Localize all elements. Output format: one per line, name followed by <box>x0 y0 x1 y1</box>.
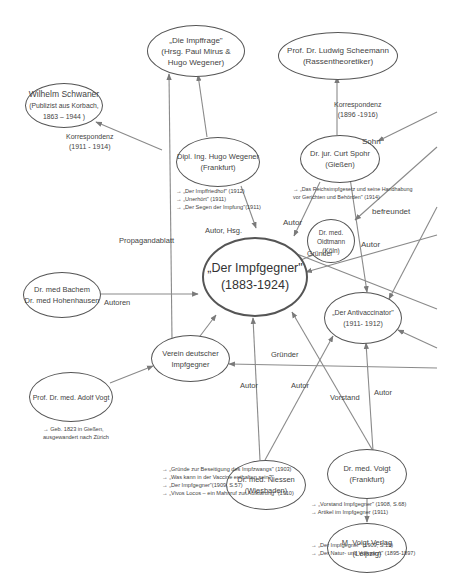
reference-item: → „Der Impfgegner"(1909, S.57) <box>162 481 294 489</box>
node-line: Dr. med Hohenhausen <box>24 295 99 306</box>
node-schwaner[interactable]: Wilhelm Schwaner (Publizist aus Korbach,… <box>25 83 103 128</box>
reference-item: vor Gerichten und Behörden" (1914) <box>293 193 413 201</box>
node-verein-deutscher-impfgegner[interactable]: Verein deutscher Impfgegner <box>151 335 230 382</box>
node-line: Verein deutscher <box>162 348 218 359</box>
edge-label-autoren: Autoren <box>104 298 130 307</box>
reference-item: → „Der Impffriedhof" (1912) <box>176 187 261 195</box>
references-voigt: → „Vorstand Impfgegner" (1908, S.68) → A… <box>311 500 406 516</box>
edge-label-spohr-autor: Autor <box>283 218 302 227</box>
node-line: (Frankfurt) <box>349 474 384 485</box>
edge-label-gruender-oidtmann: Gründer <box>307 250 333 257</box>
node-line: Dr. med. Voigt <box>343 463 390 474</box>
node-line: Dipl. Ing. Hugo Wegener <box>177 151 259 162</box>
reference-item: → „Der Impfgegner" (1909, S.19) <box>311 541 415 549</box>
edge-label-vorstand: Vorstand <box>330 393 360 402</box>
node-scheemann[interactable]: Prof. Dr. Ludwig Scheemann (Rassentheore… <box>278 32 398 80</box>
node-line: „Der Impfgegner" <box>207 260 302 277</box>
node-line: (1911- 1912) <box>343 318 383 329</box>
edge-label-gruender-verein: Gründer <box>271 350 299 359</box>
node-line: Oidtmann <box>317 237 345 246</box>
references-niessen: → „Gründe zur Beseitigung des Impfzwangs… <box>162 465 294 497</box>
node-line: Prof. Dr. med. Adolf Vogt <box>33 392 110 403</box>
reference-item: → Geb. 1823 in Gießen, <box>43 425 109 433</box>
edge-label-oidtmann-autor: Autor <box>361 240 380 249</box>
edge-label-sohn: Sohn <box>362 137 381 146</box>
reference-item: → „Unerhört" (1911) <box>176 195 261 203</box>
label-line: Korrespondenz <box>334 100 381 110</box>
node-line: (Publizist aus Korbach, <box>29 100 99 111</box>
node-die-impffrage[interactable]: „Die Impffrage" (Hrsg. Paul Mirus & Hugo… <box>147 25 245 77</box>
reference-item: → „Gründe zur Beseitigung des Impfzwangs… <box>162 465 294 473</box>
reference-item: → „Vorstand Impfgegner" (1908, S.68) <box>311 500 406 508</box>
reference-item: → „Das Reichsimpfgesetz und seine Handha… <box>293 185 413 193</box>
node-line: Dr. jur. Curt Spohr <box>310 148 370 159</box>
reference-item: ausgewandert nach Zürich <box>43 433 109 441</box>
node-line: Dr. med. <box>319 228 344 237</box>
node-der-antivaccinator[interactable]: „Der Antivaccinator" (1911- 1912) <box>324 292 402 344</box>
reference-item: → Artikel im Impfgegner (1911) <box>311 508 406 516</box>
label-line: (1896 -1916) <box>334 110 381 120</box>
node-bachem[interactable]: Dr. med Bachem Dr. med Hohenhausen <box>23 272 101 318</box>
edge-label-befreundet: befreundet <box>372 207 410 216</box>
references-vogt: → Geb. 1823 in Gießen, ausgewandert nach… <box>43 425 109 441</box>
edge-label-niessen-autor-2: Autor <box>291 381 309 390</box>
edge-label-niessen-autor-1: Autor <box>240 381 258 390</box>
node-line: (Gießen) <box>325 159 355 170</box>
node-wegener[interactable]: Dipl. Ing. Hugo Wegener (Frankfurt) <box>176 137 260 187</box>
edge-label-voigt-autor: Autor <box>374 388 392 397</box>
node-voigt[interactable]: Dr. med. Voigt (Frankfurt) <box>327 449 407 499</box>
edge-label-propagandablatt: Propagandablatt <box>119 236 174 245</box>
reference-item: → „Was kann in der Vaccine enthalten sei… <box>162 473 294 481</box>
node-line: Wilhelm Schwaner <box>29 89 99 100</box>
node-line: 1863 – 1944 ) <box>43 111 85 122</box>
node-line: (Frankfurt) <box>200 162 235 173</box>
reference-item: → „Der Natur- und Volksarzt" (1895-1897) <box>311 549 415 557</box>
reference-item: → „Vivos Locos – ein Mahnruf zur Aufklär… <box>162 489 294 497</box>
label-line: (1911 - 1914) <box>66 142 113 152</box>
node-line: „Der Antivaccinator" <box>332 307 394 318</box>
node-line: Prof. Dr. Ludwig Scheemann <box>287 45 389 56</box>
node-adolf-vogt[interactable]: Prof. Dr. med. Adolf Vogt <box>29 372 113 422</box>
references-wegener: → „Der Impffriedhof" (1912) → „Unerhört"… <box>176 187 261 211</box>
node-der-impfgegner[interactable]: „Der Impfgegner" (1883-1924) <box>202 237 308 317</box>
node-line: Impfgegner <box>172 359 210 370</box>
references-verlag: → „Der Impfgegner" (1909, S.19) → „Der N… <box>311 541 415 557</box>
node-line: Dr. med Bachem <box>34 284 90 295</box>
edge-label-korrespondenz-scheemann: Korrespondenz (1896 -1916) <box>334 100 381 120</box>
node-line: (Hrsg. Paul Mirus & <box>161 46 230 57</box>
reference-item: → „Der Segen der Impfung"(1911) <box>176 203 261 211</box>
node-line: (Rassentheoretiker) <box>303 56 373 67</box>
label-line: Korrespondenz <box>66 132 113 142</box>
edge-label-autor-hsg: Autor, Hsg. <box>205 226 242 235</box>
references-spohr: → „Das Reichsimpfgesetz und seine Handha… <box>293 185 413 201</box>
edge-label-korrespondenz-schwaner: Korrespondenz (1911 - 1914) <box>66 132 113 152</box>
node-line: „Die Impffrage" <box>169 35 222 46</box>
node-line: Hugo Wegener) <box>168 57 224 68</box>
node-line: (1883-1924) <box>221 277 289 294</box>
